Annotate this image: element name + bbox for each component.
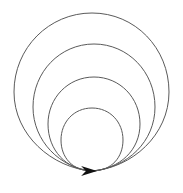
nested-loops-diagram xyxy=(0,0,183,193)
figure-background xyxy=(0,0,183,193)
figure-container xyxy=(0,0,183,193)
